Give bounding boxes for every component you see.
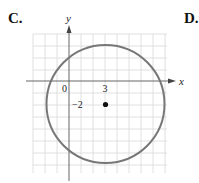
- y-axis-label: y: [65, 12, 71, 24]
- center-point: [103, 102, 108, 107]
- x-tick-label: 3: [103, 83, 108, 94]
- origin-label: 0: [62, 83, 67, 94]
- circle-graph: x y 0 3 −2: [0, 0, 199, 183]
- axes: [26, 30, 172, 181]
- y-tick-label: −2: [72, 99, 83, 110]
- grid: [33, 34, 167, 173]
- x-axis-arrow-icon: [168, 79, 176, 84]
- x-axis-label: x: [178, 75, 184, 87]
- y-axis-arrow-icon: [67, 25, 72, 33]
